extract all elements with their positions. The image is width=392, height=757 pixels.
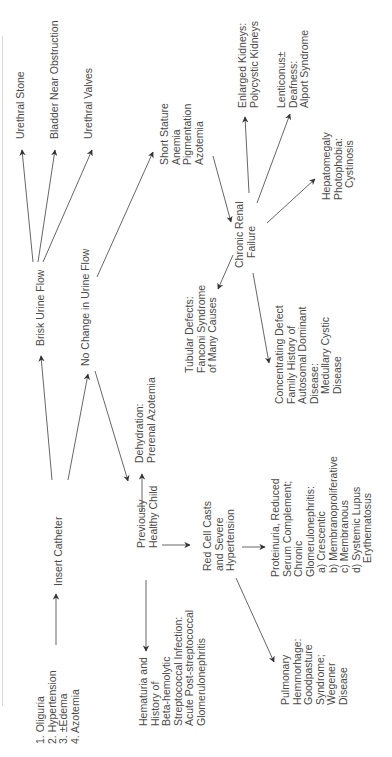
node-line: Insert Catheter (52, 516, 64, 586)
node-line: Hepatomegaly (320, 132, 332, 200)
node-red-cell-casts: Red Cell Casts and Severe Hypertension (201, 501, 236, 571)
node-line: Hypertension (224, 509, 236, 571)
node-line: Pulmonary (279, 654, 291, 705)
node-line: Chronic Renal (233, 201, 245, 268)
node-line: Healthy Child (147, 485, 159, 548)
arrow-brisk-to-urethral-stone (22, 150, 33, 262)
node-presentation: 1. Oliguria 2. Hypertension 3. ±Edema 4.… (34, 670, 81, 744)
node-chronic-renal-failure: Chronic Renal Failure (233, 201, 257, 268)
node-line: Urethral Stone (14, 71, 26, 139)
node-line: and Severe (213, 517, 225, 571)
node-brisk-urine-flow: Brisk Urine Flow (34, 269, 46, 346)
node-enlarged-kidneys: Enlarged Kidneys: Polycystic Kidneys (236, 21, 260, 108)
node-line: Azotemia (193, 121, 205, 165)
node-line: b) Membranoproliferative (327, 456, 339, 573)
node-line: Chronic (292, 541, 304, 577)
node-line: Goodpasture (302, 644, 314, 705)
node-line: Hemmorhage: (291, 638, 303, 705)
node-line: Enlarged Kidneys: (236, 23, 248, 108)
arrow-crf-to-hepatomegaly (267, 179, 315, 223)
arrow-crf-to-lenticonus (257, 114, 290, 203)
node-line: History of (149, 682, 161, 726)
node-line: Pigmentation (181, 104, 193, 165)
node-line: 4. Azotemia (69, 689, 81, 744)
node-line: Bladder Near Obstruction (48, 20, 60, 139)
arrow-short-stature-to-crf (213, 156, 231, 222)
flowchart-canvas: 1. Oliguria 2. Hypertension 3. ±Edema 4.… (0, 0, 392, 757)
arrow-catheter-to-brisk (41, 356, 52, 480)
arrow-crf-to-tubular (218, 255, 233, 289)
node-line: 2. Hypertension (46, 670, 58, 744)
arrow-nochange-to-short-stature (97, 152, 153, 277)
arrow-crf-to-enlarged-kidneys (245, 117, 249, 193)
node-line: Concentrating Defect (273, 305, 285, 404)
node-line: Proteinuria, Reduced (269, 478, 281, 577)
arrow-brisk-to-bladder (38, 150, 55, 262)
node-line: Hematuria and (137, 657, 149, 726)
node-line: Tubular Defects: (183, 296, 195, 373)
node-line: Brisk Urine Flow (34, 269, 46, 346)
node-line: 1. Oliguria (34, 696, 46, 744)
node-no-change-urine-flow: No Change in Urine Flow (79, 248, 91, 366)
node-line: Alport Syndrome (298, 30, 310, 108)
node-short-stature: Short Stature Anemia Pigmentation Azotem… (158, 103, 205, 165)
node-line: Disease (331, 356, 343, 394)
arrow-catheter-to-nochange (68, 374, 88, 480)
node-hepatomegaly: Hepatomegaly Photophobia: Cystinosis (320, 132, 355, 200)
node-dehydration: Dehydration: Prerenal Azotemia (133, 377, 157, 463)
node-urethral-valves: Urethral Valves (82, 68, 94, 139)
node-tubular-defects: Tubular Defects: Fanconi Syndrome of Man… (183, 285, 218, 373)
node-line: Urethral Valves (82, 68, 94, 139)
node-insert-catheter: Insert Catheter (52, 516, 64, 586)
node-line: Disease (337, 667, 349, 705)
node-line: Red Cell Casts (201, 501, 213, 571)
node-line: Deafness: (287, 61, 299, 108)
arrows (22, 114, 315, 662)
node-line: Short Stature (158, 103, 170, 165)
node-line: Serum Complement; (281, 481, 293, 577)
node-line: a) Crescentic (315, 511, 327, 573)
node-line: Anemia (170, 129, 182, 165)
node-line: Syndrome; (314, 654, 326, 705)
node-line: Previously (135, 499, 147, 548)
node-line: Photophobia: (332, 138, 344, 200)
arrow-crf-to-concentrating (253, 273, 269, 363)
node-pulmonary-hemorrhage: Pulmonary Hemmorhage: Goodpasture Syndro… (279, 638, 349, 705)
arrow-brisk-to-valves (43, 150, 92, 262)
node-line: Disease: (308, 363, 320, 404)
node-hematuria: Hematuria and History of Beta-hemolytic … (137, 610, 207, 726)
node-line: Glomerulonephritis: (304, 486, 316, 577)
node-line: Prerenal Azotemia (145, 377, 157, 463)
node-line: Lenticonus± (275, 51, 287, 108)
node-line: Failure (245, 226, 257, 258)
node-line: d) Systemic Lupus (350, 487, 362, 573)
node-line: c) Membranous (338, 500, 350, 573)
node-line: Beta-hemolytic (160, 657, 172, 726)
arrow-nochange-to-healthy-child (95, 371, 128, 481)
node-line: Streptococcal Infection: (172, 617, 184, 726)
node-line: No Change in Urine Flow (79, 248, 91, 366)
node-line: Glomerulonephritis (195, 638, 207, 726)
node-concentrating-defect: Concentrating Defect Family History of A… (273, 305, 343, 404)
node-line: Erythematosus (361, 493, 373, 563)
node-line: Family History of (285, 326, 297, 404)
node-proteinuria: Proteinuria, Reduced Serum Complement; C… (269, 456, 373, 577)
node-line: Dehydration: (133, 403, 145, 463)
node-urethral-stone: Urethral Stone (14, 71, 26, 139)
node-lenticonus: Lenticonus± Deafness: Alport Syndrome (275, 30, 310, 108)
arrow-redcell-to-pulmonary (236, 578, 274, 662)
node-bladder-near-obstruction: Bladder Near Obstruction (48, 20, 60, 139)
node-line: 3. ±Edema (57, 693, 69, 744)
node-line: Medullary Cystic (319, 317, 331, 394)
node-line: Polycystic Kidneys (248, 21, 260, 108)
node-line: Fanconi Syndrome (195, 285, 207, 373)
node-line: Wegener (325, 662, 337, 705)
node-line: Autosomal Dominant (296, 306, 308, 404)
node-line: of Many Causes (206, 297, 218, 373)
node-line: Cystinosis (343, 140, 355, 188)
node-line: Acute Post-streptococcal (183, 610, 195, 726)
node-previously-healthy-child: Previously Healthy Child (135, 485, 159, 548)
